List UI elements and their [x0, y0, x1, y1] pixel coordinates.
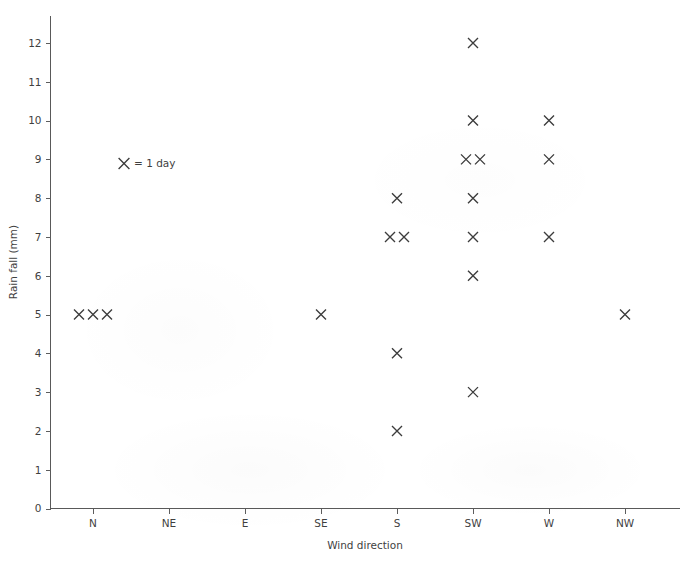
data-point-marker	[468, 193, 478, 203]
data-point-marker	[544, 154, 554, 164]
data-marker-group	[74, 38, 630, 436]
data-point-marker	[468, 116, 478, 126]
x-axis-title: Wind direction	[327, 539, 403, 551]
x-tick-label-n: N	[89, 517, 97, 529]
data-point-marker	[468, 232, 478, 242]
y-tick-label: 9	[35, 153, 42, 165]
x-tick-label-sw: SW	[464, 517, 482, 529]
legend: = 1 day	[119, 157, 176, 169]
x-tick-label-e: E	[242, 517, 249, 529]
data-point-marker	[468, 38, 478, 48]
y-tick-label: 1	[35, 464, 42, 476]
data-point-marker	[399, 232, 409, 242]
y-tick-label: 3	[35, 386, 42, 398]
x-tick-label-se: SE	[314, 517, 327, 529]
data-point-marker	[316, 310, 326, 320]
y-tick-label: 0	[35, 502, 42, 514]
plot-canvas: 0123456789101112 Rain fall (mm) NNEESESS…	[0, 0, 688, 563]
y-tick-label: 2	[35, 425, 42, 437]
y-tick-label: 10	[28, 114, 41, 126]
y-tick-label: 6	[35, 270, 42, 282]
data-point-marker	[468, 271, 478, 281]
data-point-marker	[392, 193, 402, 203]
data-point-marker	[392, 426, 402, 436]
y-tick-label: 12	[28, 37, 41, 49]
y-tick-label: 11	[28, 76, 41, 88]
y-axis-title: Rain fall (mm)	[7, 225, 19, 299]
legend-x-cross-icon	[119, 158, 130, 169]
y-tick-group: 0123456789101112	[28, 37, 50, 515]
x-tick-label-s: S	[394, 517, 401, 529]
data-point-marker	[620, 310, 630, 320]
data-point-marker	[544, 116, 554, 126]
data-point-marker	[544, 232, 554, 242]
y-tick-label: 5	[35, 308, 42, 320]
x-tick-label-nw: NW	[616, 517, 635, 529]
data-point-marker	[461, 154, 471, 164]
y-tick-label: 4	[35, 347, 42, 359]
x-tick-label-w: W	[544, 517, 555, 529]
rainfall-wind-direction-chart: 0123456789101112 Rain fall (mm) NNEESESS…	[0, 0, 688, 563]
data-point-marker	[102, 310, 112, 320]
data-point-marker	[74, 310, 84, 320]
x-tick-group: NNEESESSWWNW	[89, 509, 635, 529]
data-point-marker	[392, 348, 402, 358]
x-axis: NNEESESSWWNW Wind direction	[51, 509, 681, 552]
y-tick-label: 7	[35, 231, 42, 243]
data-point-marker	[475, 154, 485, 164]
data-point-marker	[88, 310, 98, 320]
legend-label: = 1 day	[134, 157, 175, 169]
data-point-marker	[385, 232, 395, 242]
y-tick-label: 8	[35, 192, 42, 204]
y-axis: 0123456789101112 Rain fall (mm)	[7, 16, 51, 514]
x-tick-label-ne: NE	[162, 517, 177, 529]
data-point-marker	[468, 387, 478, 397]
